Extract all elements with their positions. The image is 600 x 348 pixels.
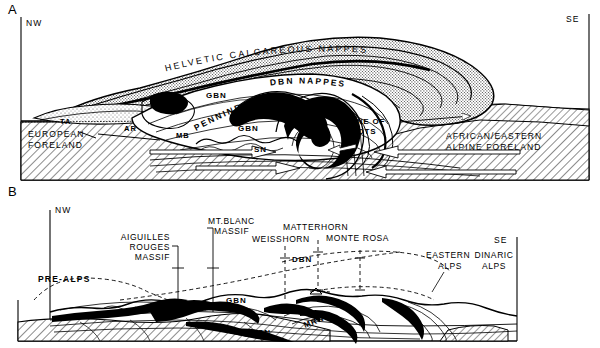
panel-b-direction-se: SE [494,235,507,245]
european-foreland-label-line2: FORELAND [28,140,83,150]
aiguilles-rouges-label-line1: AIGUILLES [121,232,170,242]
zone-of-roots-label-line1: ZONE OF [344,117,385,126]
weisshorn-label: WEISSHORN [252,234,310,244]
african-foreland-label-line2: ALPINE FORELAND [446,142,541,152]
unit-label-gbn-lower: GBN [238,124,259,133]
dinaric-alps-label-line2: ALPS [482,261,506,271]
unit-label-mb: MB [176,131,190,140]
dinaric-alps-label-line1: DINARIC [474,250,513,260]
unit-label-sn: SN [254,145,267,154]
figure-canvas: A NW SE HELVETIC CALCAREOUS NAPPES DBN N… [0,0,600,348]
unit-label-ta: TA [60,117,71,126]
matterhorn-label: MATTERHORN [283,222,348,232]
monte-rosa-label: MONTE ROSA [326,233,389,243]
african-foreland-label-line1: AFRICAN/EASTERN [446,131,542,141]
aiguilles-rouges-label-line3: MASSIF [135,252,170,262]
mt-blanc-label-line1: MT.BLANC [208,216,255,226]
zone-of-roots-label-line2: ROOTS [344,127,376,136]
cross-section-figure: A NW SE HELVETIC CALCAREOUS NAPPES DBN N… [0,0,600,348]
panel-a-direction-se: SE [566,14,579,24]
mt-blanc-label-line2: MASSIF [214,226,249,236]
pre-alps-label: PRE-ALPS [38,274,91,284]
unit-label-mrn: MRN [296,117,317,126]
aiguilles-rouges-label-line2: ROUGES [130,242,170,252]
eastern-alps-label-line2: ALPS [438,261,462,271]
panel-b-unit-sn: SN [258,328,271,337]
european-foreland-label-line1: EUROPEAN [28,129,85,139]
panel-a-id: A [8,2,17,17]
unit-label-gbn-upper: GBN [206,91,227,100]
panel-b-unit-gbn: GBN [226,296,247,305]
panel-b-id: B [8,184,17,199]
eastern-alps-label-line1: EASTERN [426,250,470,260]
unit-label-ar: AR [124,124,137,133]
panel-a-direction-nw: NW [26,18,42,28]
panel-b-unit-dbn: DBN [292,255,312,264]
panel-b-direction-nw: NW [55,205,71,215]
